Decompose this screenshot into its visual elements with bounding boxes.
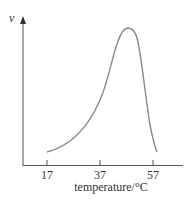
x-tick-label-17: 17 <box>41 168 53 183</box>
x-axis-title: temperature/°C <box>74 180 147 195</box>
rate-curve <box>47 28 157 152</box>
x-tick-label-57: 57 <box>147 168 159 183</box>
y-axis-title: v <box>9 11 14 26</box>
y-axis-arrow-icon <box>20 16 26 24</box>
